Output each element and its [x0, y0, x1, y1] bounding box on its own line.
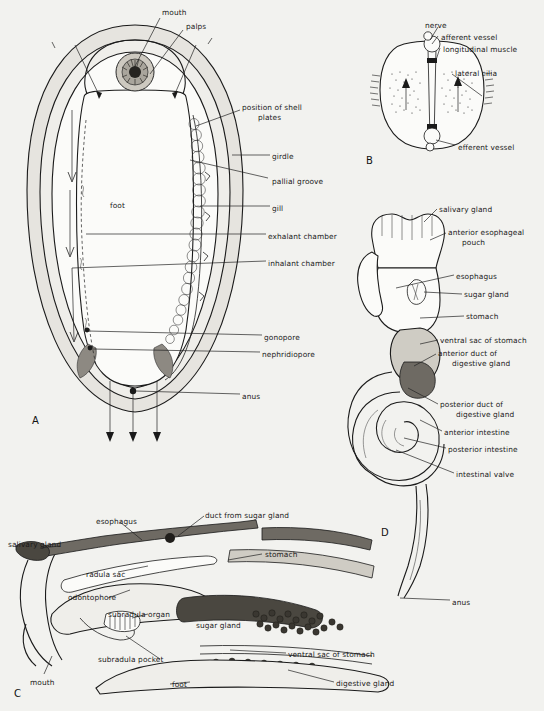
label-panel-d-8: digestive gland — [452, 359, 510, 369]
label-panel-c-11: digestive gland — [336, 679, 394, 689]
panel-c-drawing — [16, 516, 389, 694]
label-panel-c-2: salivary gland — [8, 540, 61, 550]
anus-dot — [130, 388, 136, 394]
label-panel-d-13: intestinal valve — [456, 470, 514, 480]
label-panel-c-9: ventral sac of stomach — [288, 650, 375, 660]
label-panel-a-0: mouth — [162, 8, 187, 18]
label-panel-c-1: duct from sugar gland — [205, 511, 289, 521]
label-panel-a-2: position of shell — [242, 103, 302, 113]
panel-letter-d: D — [381, 527, 389, 538]
panel-letter-a: A — [32, 415, 39, 426]
label-panel-c-3: stomach — [265, 550, 297, 560]
mouth-palps — [116, 53, 154, 91]
label-panel-a-12: anus — [242, 392, 260, 402]
label-panel-a-4: girdle — [272, 152, 294, 162]
label-panel-c-6: subradula organ — [108, 610, 170, 620]
label-panel-c-0: esophagus — [96, 517, 137, 527]
label-panel-a-3: plates — [258, 113, 281, 123]
panel-letter-c: C — [14, 688, 21, 699]
label-panel-d-0: salivary gland — [439, 205, 492, 215]
label-panel-d-10: digestive gland — [456, 410, 514, 420]
label-panel-a-9: foot — [110, 201, 125, 211]
label-panel-c-12: mouth — [30, 678, 55, 688]
label-panel-a-1: palps — [186, 22, 206, 32]
panel-a-drawing — [27, 18, 270, 442]
label-panel-d-3: esophagus — [456, 272, 497, 282]
label-panel-b-3: lateral cilia — [455, 69, 497, 79]
label-panel-b-0: nerve — [425, 21, 447, 31]
label-panel-a-8: inhalant chamber — [268, 259, 335, 269]
label-panel-c-5: odontophore — [68, 593, 116, 603]
label-panel-b-4: efferent vessel — [458, 143, 514, 153]
label-panel-d-14: anus — [452, 598, 470, 608]
label-panel-b-1: afferent vessel — [441, 33, 497, 43]
label-panel-c-10: foot — [172, 680, 187, 690]
label-panel-d-11: anterior intestine — [444, 428, 510, 438]
panel-letter-b: B — [366, 155, 373, 166]
label-panel-c-8: subradula pocket — [98, 655, 163, 665]
label-panel-d-1: anterior esophageal — [448, 228, 524, 238]
label-panel-d-7: anterior duct of — [438, 349, 497, 359]
label-panel-d-2: pouch — [462, 238, 485, 248]
label-panel-a-6: gill — [272, 204, 283, 214]
label-panel-a-5: pallial groove — [272, 177, 323, 187]
label-panel-c-4: radula sac — [86, 570, 125, 580]
label-panel-d-6: ventral sac of stomach — [440, 336, 527, 346]
label-panel-a-10: gonopore — [264, 333, 300, 343]
gonopore-dot — [85, 328, 90, 333]
nephridiopore-dot — [88, 346, 93, 351]
label-panel-d-9: posterior duct of — [440, 400, 503, 410]
label-panel-d-12: posterior intestine — [448, 445, 518, 455]
label-panel-a-11: nephridiopore — [262, 350, 315, 360]
label-panel-a-7: exhalant chamber — [268, 232, 337, 242]
label-panel-c-7: sugar gland — [196, 621, 241, 631]
label-panel-d-4: sugar gland — [464, 290, 509, 300]
label-panel-b-2: longitudinal muscle — [443, 45, 517, 55]
label-panel-d-5: stomach — [466, 312, 498, 322]
figure-plate: mouthpalpsposition of shellplatesgirdlep… — [0, 0, 544, 711]
